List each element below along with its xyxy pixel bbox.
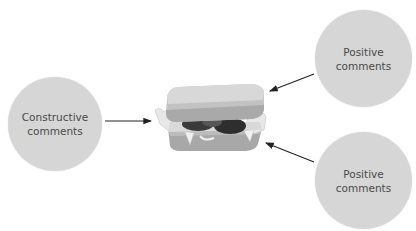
arrow-bottom-to-sandwich — [266, 143, 314, 162]
arrow-top-to-sandwich — [270, 74, 314, 91]
positive-comments-bottom-node: Positive comments — [315, 132, 412, 229]
node-label-line2: comments — [336, 59, 391, 73]
node-label-line2: comments — [27, 124, 82, 138]
positive-comments-top-node: Positive comments — [315, 10, 412, 107]
node-label-line1: Constructive — [22, 110, 88, 124]
constructive-comments-node: Constructive comments — [8, 77, 102, 171]
sandwich-icon — [155, 84, 266, 151]
node-label-line1: Positive — [343, 45, 383, 59]
node-label-line2: comments — [336, 181, 391, 195]
node-label-line1: Positive — [343, 167, 383, 181]
